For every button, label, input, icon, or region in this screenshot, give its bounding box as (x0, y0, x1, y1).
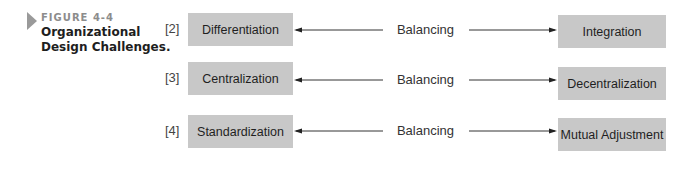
row-number: [2] (165, 21, 179, 36)
left-box-differentiation: Differentiation (188, 13, 293, 46)
figure-number: FIGURE 4-4 (41, 12, 114, 23)
right-box-decentralization: Decentralization (558, 67, 666, 100)
box-label: Integration (582, 25, 641, 39)
balancing-connector: Balancing (293, 73, 558, 87)
box-label: Decentralization (567, 77, 657, 91)
box-label: Centralization (202, 72, 278, 86)
connector-label: Balancing (293, 72, 558, 87)
box-label: Standardization (197, 125, 284, 139)
right-box-mutual-adjustment: Mutual Adjustment (558, 118, 666, 151)
left-box-standardization: Standardization (188, 115, 293, 148)
box-label: Differentiation (202, 23, 279, 37)
balancing-connector: Balancing (293, 124, 558, 138)
row-number: [4] (165, 123, 179, 138)
connector-label: Balancing (293, 22, 558, 37)
balancing-connector: Balancing (293, 23, 558, 37)
connector-label: Balancing (293, 123, 558, 138)
left-box-centralization: Centralization (188, 62, 293, 95)
box-label: Mutual Adjustment (561, 128, 664, 142)
figure-marker-icon (27, 12, 37, 30)
right-box-integration: Integration (558, 15, 666, 48)
row-number: [3] (165, 70, 179, 85)
